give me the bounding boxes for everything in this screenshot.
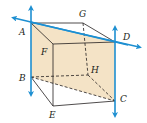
label-H: H [90,65,99,75]
label-C: C [120,94,127,104]
prism-diagram: A G D F B H C E [0,0,147,123]
label-G: G [79,9,86,19]
label-F: F [40,47,48,57]
label-E: E [48,110,56,120]
label-D: D [122,32,130,42]
label-B: B [18,73,26,83]
label-A: A [18,27,26,37]
